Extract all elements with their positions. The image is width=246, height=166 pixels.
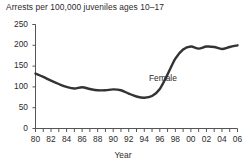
series-label-female: Female [149,74,177,83]
chart-container: Arrests per 100,000 juveniles ages 10–17… [0,0,246,166]
x-axis-title: Year [0,150,246,160]
series-line-female [36,45,238,97]
axis-lines [33,25,238,133]
data-series-group [36,45,238,97]
plot-area [0,0,246,166]
